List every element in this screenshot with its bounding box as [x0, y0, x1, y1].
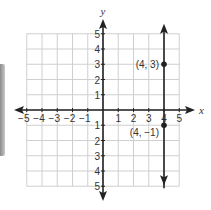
- x-tick-label: 1: [115, 113, 121, 124]
- y-tick-label: 5: [94, 29, 100, 40]
- y-tick-label: 4: [94, 166, 100, 177]
- x-tick-label: −1: [79, 113, 91, 124]
- x-tick-label: 5: [176, 113, 182, 124]
- point-label: (4, −1): [130, 127, 159, 138]
- x-tick-label: −4: [33, 113, 45, 124]
- y-axis-label: y: [100, 5, 106, 17]
- data-point: [161, 122, 167, 128]
- point-label: (4, 3): [136, 59, 159, 70]
- x-axis-label: x: [198, 104, 204, 116]
- x-tick-label: −2: [64, 113, 76, 124]
- x-tick-label: −3: [49, 113, 61, 124]
- data-point: [161, 61, 167, 67]
- coordinate-plane: yx−5−4−3−2−1123451234512345(4, 3)(4, −1): [0, 0, 211, 210]
- x-tick-label: 2: [131, 113, 137, 124]
- y-tick-label: 4: [94, 44, 100, 55]
- y-tick-label: 3: [94, 59, 100, 70]
- y-tick-label: 2: [94, 136, 100, 147]
- y-tick-label: 1: [94, 90, 100, 101]
- x-tick-label: −5: [18, 113, 30, 124]
- y-tick-label: 3: [94, 151, 100, 162]
- y-tick-label: 2: [94, 75, 100, 86]
- y-tick-label: 5: [94, 181, 100, 192]
- y-tick-label: 1: [94, 120, 100, 131]
- x-tick-label: 3: [146, 113, 152, 124]
